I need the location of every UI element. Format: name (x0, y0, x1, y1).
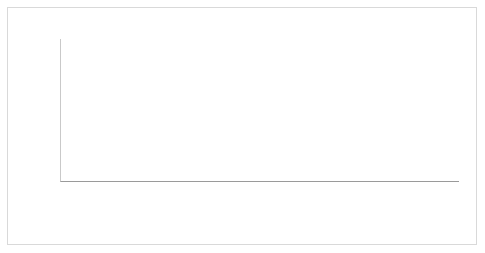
chart-panel (7, 7, 477, 245)
legend (42, 214, 43, 217)
plot-inner (61, 39, 459, 181)
plot-area (8, 8, 478, 246)
plot-canvas (60, 39, 459, 182)
